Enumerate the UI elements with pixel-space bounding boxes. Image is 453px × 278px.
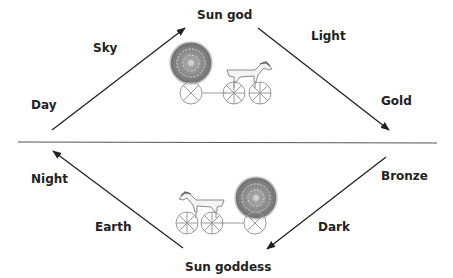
label-sun-goddess: Sun goddess — [185, 260, 271, 274]
label-sky: Sky — [93, 41, 117, 55]
label-dark: Dark — [318, 220, 350, 234]
label-light: Light — [311, 29, 346, 43]
label-bronze: Bronze — [381, 169, 428, 183]
horizon-divider — [18, 142, 437, 143]
label-day: Day — [31, 98, 57, 112]
arrow-day-to-sun-god — [52, 28, 185, 130]
label-night: Night — [31, 172, 68, 186]
sun-chariot-top-icon — [170, 42, 272, 104]
diagram-lines — [0, 0, 453, 278]
sun-cycle-diagram: Day Sky Sun god Light Gold Night Earth S… — [0, 0, 453, 278]
label-earth: Earth — [95, 220, 132, 234]
arrow-bronze-to-sun-goddess — [267, 157, 386, 249]
label-sun-god: Sun god — [197, 8, 252, 22]
sun-chariot-bottom-icon — [176, 177, 277, 234]
arrow-sun-god-to-gold — [258, 28, 389, 130]
label-gold: Gold — [381, 94, 412, 108]
